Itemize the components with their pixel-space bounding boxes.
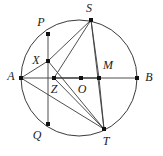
geometry-figure: PSXAZOMBQT — [0, 0, 163, 156]
segment-A-T — [21, 78, 104, 129]
geometry-canvas: PSXAZOMBQT — [0, 0, 163, 156]
vertex-dot-z — [52, 76, 56, 80]
point-label-s: S — [86, 1, 92, 15]
point-label-b: B — [145, 70, 153, 84]
segment-X-S — [48, 20, 91, 61]
vertex-dot-b — [135, 76, 139, 80]
vertex-dot-t — [102, 127, 106, 131]
point-label-x: X — [31, 53, 40, 67]
vertex-dot-m — [97, 76, 101, 80]
point-label-p: P — [36, 15, 45, 29]
vertex-dot-p — [46, 32, 50, 36]
segment-S-Z — [54, 20, 91, 78]
point-label-a: A — [6, 69, 15, 83]
point-label-q: Q — [33, 128, 42, 142]
vertex-dot-q — [46, 122, 50, 126]
vertex-dot-s — [89, 18, 93, 22]
point-label-m: M — [102, 58, 114, 72]
point-label-layer: PSXAZOMBQT — [6, 1, 153, 148]
point-label-z: Z — [51, 82, 58, 96]
segment-S-M — [91, 20, 99, 78]
point-label-t: T — [103, 134, 111, 148]
segment-M-T — [99, 78, 104, 129]
vertex-dot-x — [46, 59, 50, 63]
vertex-dot-a — [19, 76, 23, 80]
vertex-dot-o — [79, 76, 83, 80]
point-label-o: O — [78, 82, 87, 96]
